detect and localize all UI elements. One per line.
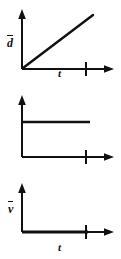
velocity-plot-svg bbox=[0, 86, 121, 174]
chart-displacement-vs-time: d t bbox=[0, 0, 121, 86]
displacement-data-line bbox=[23, 15, 93, 68]
y-axis-arrowhead-icon bbox=[18, 183, 26, 193]
y-axis-label-displacement: d bbox=[7, 35, 13, 49]
x-axis-arrowhead-icon bbox=[104, 65, 114, 73]
y-axis-arrowhead-icon bbox=[18, 9, 26, 19]
y-axis-label-text: d bbox=[7, 37, 13, 49]
y-axis-arrowhead-icon bbox=[18, 95, 26, 105]
chart-velocity-vs-time: v t bbox=[0, 86, 121, 174]
x-axis-arrowhead-icon bbox=[104, 153, 114, 161]
acceleration-plot-svg bbox=[0, 174, 121, 259]
chart-acceleration-vs-time: a t bbox=[0, 174, 121, 259]
x-axis-arrowhead-icon bbox=[104, 228, 114, 236]
kinematics-graphs-figure: d t v t bbox=[0, 0, 121, 259]
vector-overbar-wrap: d bbox=[7, 35, 13, 49]
x-axis-label-time: t bbox=[58, 68, 61, 79]
